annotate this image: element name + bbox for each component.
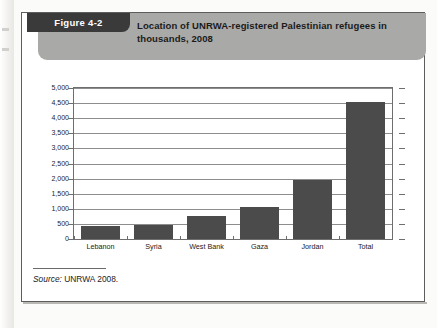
scan-artifact bbox=[2, 28, 9, 31]
bar-slot bbox=[233, 88, 286, 239]
y-axis-tick-mark bbox=[68, 194, 73, 195]
y-axis-tick-mark bbox=[68, 133, 73, 134]
y-axis-tick-mark bbox=[68, 88, 73, 89]
y-axis-tick-label: 1,000 bbox=[27, 205, 69, 212]
source-label: Source: bbox=[33, 274, 62, 284]
right-axis-tick-mark bbox=[399, 224, 405, 225]
figure-number-badge: Figure 4-2 bbox=[27, 13, 130, 32]
x-axis-tick-mark bbox=[392, 236, 393, 240]
x-axis-label-lebanon: Lebanon bbox=[74, 240, 127, 254]
y-axis-tick-label: 5,000 bbox=[27, 84, 69, 91]
y-axis-tick-mark bbox=[68, 118, 73, 119]
y-axis-tick-mark bbox=[68, 209, 73, 210]
source-note: Source: UNRWA 2008. bbox=[33, 274, 118, 284]
y-axis-tick-mark bbox=[68, 103, 73, 104]
y-axis-tick-label: 1,500 bbox=[27, 190, 69, 197]
right-axis-tick-mark bbox=[399, 164, 405, 165]
bars-layer bbox=[74, 88, 392, 239]
source-divider bbox=[33, 268, 106, 269]
bar-slot bbox=[74, 88, 127, 239]
y-axis-tick-label: 2,500 bbox=[27, 160, 69, 167]
y-axis-tick-label: 2,000 bbox=[27, 175, 69, 182]
y-axis-tick-label: 500 bbox=[27, 220, 69, 227]
bar-syria bbox=[134, 225, 173, 239]
right-axis-tick-mark bbox=[399, 148, 405, 149]
x-axis-label-syria: Syria bbox=[127, 240, 180, 254]
x-axis-label-jordan: Jordan bbox=[286, 240, 339, 254]
figure-number-label: Figure 4-2 bbox=[27, 13, 130, 32]
right-axis-tick-mark bbox=[399, 179, 405, 180]
page-scan-edge bbox=[0, 0, 14, 328]
y-axis-tick-mark bbox=[68, 179, 73, 180]
y-axis-tick-mark bbox=[68, 164, 73, 165]
right-axis-tick-mark bbox=[399, 133, 405, 134]
bar-slot bbox=[339, 88, 392, 239]
bar-chart: 05001,0001,5002,0002,5003,0003,5004,0004… bbox=[33, 82, 405, 254]
y-axis-tick-mark bbox=[68, 224, 73, 225]
bar-slot bbox=[180, 88, 233, 239]
y-axis-tick-label: 3,000 bbox=[27, 144, 69, 151]
right-axis-tick-mark bbox=[399, 118, 405, 119]
bar-total bbox=[346, 102, 385, 239]
figure-title: Location of UNRWA-registered Palestinian… bbox=[137, 20, 417, 45]
bar-gaza bbox=[240, 207, 279, 239]
y-axis-tick-mark bbox=[68, 148, 73, 149]
y-axis-tick-label: 3,500 bbox=[27, 129, 69, 136]
bar-slot bbox=[286, 88, 339, 239]
y-axis-tick-label: 0 bbox=[27, 235, 69, 242]
scan-artifact bbox=[2, 48, 9, 51]
bar-slot bbox=[127, 88, 180, 239]
y-axis-tick-label: 4,000 bbox=[27, 114, 69, 121]
right-axis-tick-mark bbox=[399, 239, 405, 240]
x-axis-label-gaza: Gaza bbox=[233, 240, 286, 254]
y-axis-tick-label: 4,500 bbox=[27, 99, 69, 106]
x-axis-label-west-bank: West Bank bbox=[180, 240, 233, 254]
bar-west-bank bbox=[187, 216, 226, 239]
source-value: UNRWA 2008. bbox=[64, 274, 118, 284]
right-axis-tick-mark bbox=[399, 103, 405, 104]
right-axis-tick-mark bbox=[399, 209, 405, 210]
right-axis-tick-mark bbox=[399, 194, 405, 195]
bar-jordan bbox=[293, 180, 332, 239]
x-axis-label-total: Total bbox=[339, 240, 392, 254]
right-axis-tick-mark bbox=[399, 88, 405, 89]
x-axis-labels: LebanonSyriaWest BankGazaJordanTotal bbox=[74, 240, 392, 254]
bar-lebanon bbox=[81, 226, 120, 239]
figure-frame-shadow bbox=[23, 302, 427, 304]
y-axis-tick-mark bbox=[68, 239, 73, 240]
